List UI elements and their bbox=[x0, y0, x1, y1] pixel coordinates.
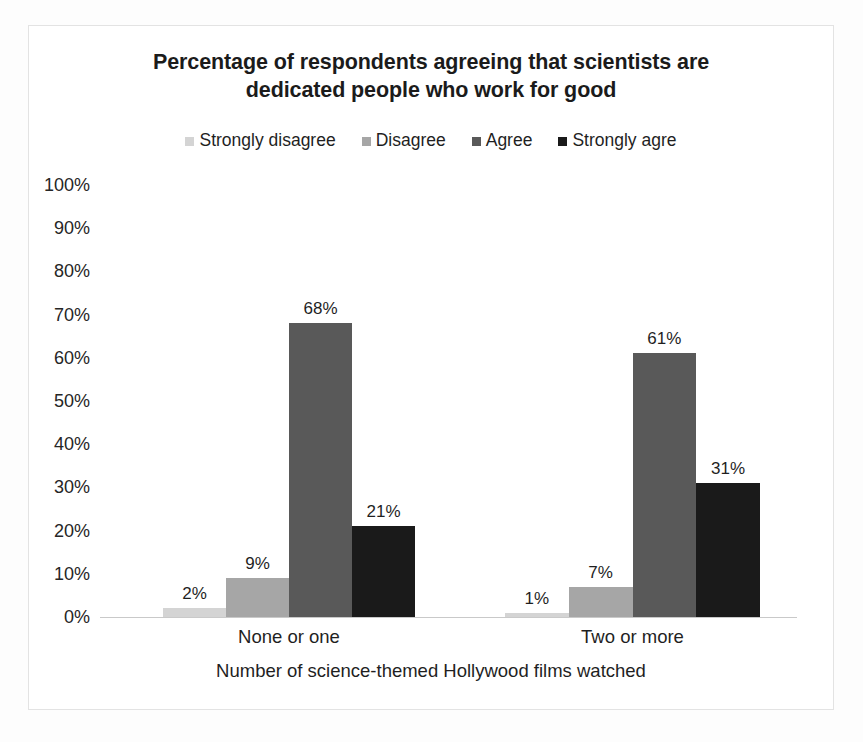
bar-value-label: 21% bbox=[366, 502, 400, 522]
y-axis-tick-label: 50% bbox=[16, 391, 90, 412]
legend-swatch-icon-strongly-disagree bbox=[185, 137, 194, 146]
bar-rect[interactable] bbox=[696, 483, 760, 617]
bar-value-label: 31% bbox=[711, 459, 745, 479]
bar-slot: 21% bbox=[352, 185, 415, 617]
y-axis-tick-label: 70% bbox=[16, 304, 90, 325]
y-axis-tick-label: 30% bbox=[16, 477, 90, 498]
y-axis-tick-label: 60% bbox=[16, 347, 90, 368]
chart-legend: Strongly disagree Disagree Agree Strongl… bbox=[60, 130, 802, 151]
bar-value-label: 9% bbox=[245, 554, 270, 574]
legend-label-strongly-agree: Strongly agre bbox=[572, 130, 676, 151]
legend-label-strongly-disagree: Strongly disagree bbox=[199, 130, 335, 151]
chart-title-line-1: Percentage of respondents agreeing that … bbox=[60, 48, 802, 76]
chart-title: Percentage of respondents agreeing that … bbox=[60, 48, 802, 105]
legend-label-agree: Agree bbox=[486, 130, 533, 151]
bar-rect[interactable] bbox=[352, 526, 415, 617]
bar-value-label: 7% bbox=[588, 563, 613, 583]
bar-rect[interactable] bbox=[226, 578, 289, 617]
y-axis-tick-label: 40% bbox=[16, 434, 90, 455]
bar-slot: 31% bbox=[696, 185, 760, 617]
y-axis-tick-label: 90% bbox=[16, 218, 90, 239]
bar-slot: 2% bbox=[163, 185, 226, 617]
legend-item-agree: Agree bbox=[472, 130, 533, 151]
x-axis-line bbox=[100, 617, 797, 618]
legend-swatch-icon-disagree bbox=[362, 137, 371, 146]
bar-rect[interactable] bbox=[163, 608, 226, 617]
y-axis-tick-label: 10% bbox=[16, 563, 90, 584]
bar-slot: 7% bbox=[569, 185, 633, 617]
legend-item-disagree: Disagree bbox=[362, 130, 446, 151]
legend-swatch-icon-agree bbox=[472, 137, 481, 146]
y-axis-tick-label: 100% bbox=[16, 175, 90, 196]
bar-value-label: 68% bbox=[303, 299, 337, 319]
x-axis-category-label-1: Two or more bbox=[505, 626, 760, 648]
x-axis-title: Number of science-themed Hollywood films… bbox=[60, 660, 802, 682]
chart-title-line-2: dedicated people who work for good bbox=[60, 76, 802, 104]
legend-item-strongly-disagree: Strongly disagree bbox=[185, 130, 335, 151]
bar-group-none-or-one: 2%9%68%21% bbox=[163, 185, 415, 617]
plot-area: 2%9%68%21% 1%7%61%31% bbox=[100, 185, 795, 617]
bar-value-label: 61% bbox=[647, 329, 681, 349]
y-axis-tick-label: 80% bbox=[16, 261, 90, 282]
legend-swatch-icon-strongly-agree bbox=[558, 137, 567, 146]
bar-rect[interactable] bbox=[289, 323, 352, 617]
bar-slot: 61% bbox=[633, 185, 697, 617]
bar-slot: 9% bbox=[226, 185, 289, 617]
bar-rect[interactable] bbox=[633, 353, 697, 617]
bar-rect[interactable] bbox=[569, 587, 633, 617]
legend-label-disagree: Disagree bbox=[376, 130, 446, 151]
bar-value-label: 1% bbox=[525, 589, 550, 609]
y-axis-tick-label: 20% bbox=[16, 520, 90, 541]
y-axis: 0%10%20%30%40%50%60%70%80%90%100% bbox=[14, 185, 90, 617]
chart-figure: Percentage of respondents agreeing that … bbox=[0, 0, 863, 742]
y-axis-tick-label: 0% bbox=[16, 607, 90, 628]
bar-value-label: 2% bbox=[182, 584, 207, 604]
legend-item-strongly-agree: Strongly agre bbox=[558, 130, 676, 151]
bar-slot: 1% bbox=[505, 185, 569, 617]
bar-slot: 68% bbox=[289, 185, 352, 617]
bar-group-two-or-more: 1%7%61%31% bbox=[505, 185, 760, 617]
x-axis-category-label-0: None or one bbox=[163, 626, 415, 648]
